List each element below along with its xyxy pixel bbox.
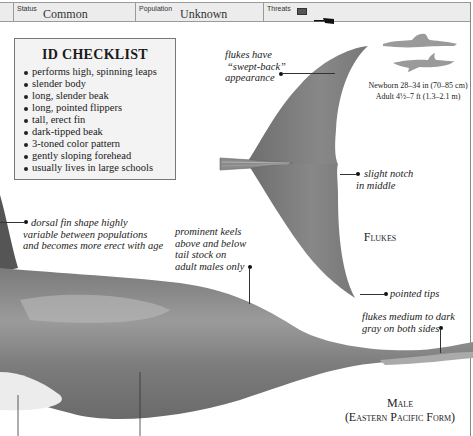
annotation-line: “swept-back”: [225, 61, 286, 73]
adult-size: Adult 4½–7 ft (1.3–2.1 m): [362, 91, 473, 102]
annotation-line: appearance: [225, 72, 286, 84]
checklist-item: long, pointed flippers: [23, 102, 167, 114]
annotation-dorsal-fin: dorsal fin shape highly variable between…: [23, 217, 163, 252]
checklist-item: gently sloping forehead: [23, 150, 167, 162]
annotation-flukes-color: flukes medium to dark gray on both sides: [362, 311, 455, 334]
checklist-item: long, slender beak: [23, 90, 167, 102]
checklist-item: performs high, spinning leaps: [23, 66, 167, 78]
leader-line: [340, 174, 356, 175]
annotation-line: in middle: [356, 180, 413, 192]
leader-line: [0, 222, 24, 223]
male-label: Male: [330, 396, 470, 410]
checklist-item: dark-tipped beak: [23, 126, 167, 138]
annotation-swept-back: flukes have “swept-back” appearance: [225, 49, 286, 84]
annotation-line: prominent keels: [175, 226, 246, 238]
leader-line: [440, 329, 441, 353]
leader-line: [249, 268, 250, 304]
form-label: (Eastern Pacific Form): [330, 410, 470, 424]
leader-dot: [384, 292, 388, 296]
checklist-items: performs high, spinning leaps slender bo…: [23, 66, 167, 174]
newborn-size: Newborn 28–34 in (70–85 cm): [362, 80, 473, 91]
male-caption: Male (Eastern Pacific Form): [330, 396, 470, 424]
human-swimmer-silhouette-icon: [383, 34, 457, 48]
annotation-pointed-tips: pointed tips: [390, 288, 439, 300]
annotation-line: above and below: [175, 238, 246, 250]
leader-line: [360, 294, 384, 295]
annotation-keels: prominent keels above and below tail sto…: [175, 226, 246, 272]
annotation-line: adult males only: [175, 261, 246, 273]
annotation-slight-notch: slight notch in middle: [356, 168, 413, 191]
annotation-line: dorsal fin shape highly: [23, 217, 163, 229]
annotation-line: variable between populations: [23, 229, 163, 241]
annotation-line: flukes have: [225, 49, 286, 61]
leader-line: [283, 73, 335, 74]
annotation-line: tail stock on: [175, 249, 246, 261]
checklist-item: usually lives in large schools: [23, 162, 167, 174]
annotation-line: slight notch: [356, 168, 413, 180]
checklist-title: ID CHECKLIST: [23, 47, 167, 63]
annotation-line: and becomes more erect with age: [23, 240, 163, 252]
flukes-label: Flukes: [350, 230, 410, 244]
checklist-item: tall, erect fin: [23, 114, 167, 126]
checklist-item: 3-toned color pattern: [23, 138, 167, 150]
annotation-line: flukes medium to dark: [362, 311, 455, 323]
dolphin-silhouette-icon: [393, 53, 455, 72]
size-info: Newborn 28–34 in (70–85 cm) Adult 4½–7 f…: [362, 80, 473, 102]
id-checklist: ID CHECKLIST performs high, spinning lea…: [14, 38, 176, 180]
checklist-item: slender body: [23, 78, 167, 90]
